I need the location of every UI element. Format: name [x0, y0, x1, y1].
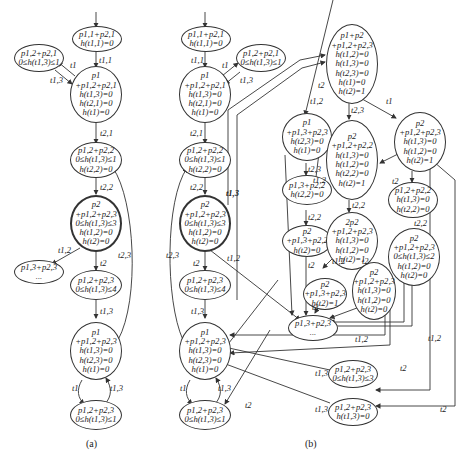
state-b8: p1+p2+p1,2+p2,3h(t1,2)=0h(t1,3)=0h(t2,3)…	[326, 24, 378, 104]
edge-label: t1,2	[428, 333, 441, 343]
state-a5: p1,3+p2,3...	[14, 260, 64, 284]
edge-label: t2,2	[352, 200, 365, 210]
edge-label: t2	[362, 256, 369, 266]
edge-label: t1,2	[310, 96, 323, 106]
edge-label: t1,2	[58, 245, 71, 255]
edge-label: t1	[386, 96, 393, 106]
edge-label: t1,2	[313, 175, 326, 185]
state-a2: p1+p1,2+p2,1h(t1,3)=0h(t2,1)=0h(t1)=0	[70, 66, 122, 123]
state-a6: p1,2+p2,30≤h(t1,3)≤4	[70, 270, 122, 300]
edge-label: t2,3	[351, 105, 364, 115]
state-a3: p1,2+p2,20≤h(t1,3)≤1h(t2,2)=0	[70, 142, 122, 178]
edge-label: t1,1	[191, 55, 204, 65]
state-b20: p1,2+p2,30≤h(t1,3)≤3	[328, 360, 378, 388]
state-b17: p2+p1,3+p2,3h(t2)=1	[303, 278, 347, 310]
edge-label: t1,3	[315, 368, 328, 378]
state-b3: p1,2+p2,20≤h(t1,3)≤1h(t2,2)=0	[179, 142, 231, 178]
edge-label: t2	[193, 258, 200, 268]
edge-label: t1,2	[355, 334, 368, 344]
edge-label: t1,3	[218, 383, 231, 393]
edge-label: t2,3	[308, 164, 321, 174]
state-b15: p1,2+p2,2h(t1,3)=0h(t2,2)=0	[388, 182, 438, 218]
edge-label: t2,2	[190, 182, 203, 192]
edge-label: t1,3	[110, 383, 123, 393]
edge-label: t1,1	[99, 55, 112, 65]
edge-label: t1,2	[332, 256, 345, 266]
edge-label: t1,3	[191, 306, 204, 316]
caption-b: (b)	[305, 438, 317, 449]
state-b6: p1+p1,2+p2,3h(t1,3)=0h(t2,3)=0h(t1)=0	[179, 322, 231, 380]
edge-label: t2	[245, 400, 252, 410]
state-a0: p1,1+p2,1h(t1,1)=0	[72, 26, 122, 52]
state-b11: p2+p1,2+p2,3h(t1,3)=0h(t1,2)=0h(t2)=1	[394, 112, 446, 172]
edge-label: t2	[312, 302, 319, 312]
edge-label: t1	[222, 60, 229, 70]
state-a4: p2+p1,2+p2,30≤h(t1,3)≤3h(t1,2)=0h(t2)=0	[70, 195, 122, 252]
state-b16: p2+p1,2+p2,30≤h(t1,3)≤2h(t1,2)=0h(t2)=0	[388, 228, 440, 286]
state-b4: p2+p1,2+p2,30≤h(t1,3)≤3h(t1,2)=0h(t2)=0	[179, 195, 231, 252]
edge-label: t2,3	[166, 250, 179, 260]
edge-label: t2	[440, 404, 447, 414]
edge-label: t1,3	[50, 75, 63, 85]
edge-label: t2,2	[100, 182, 113, 192]
caption-a: (a)	[86, 438, 97, 449]
state-b19: p1,3+p2,3...	[288, 315, 338, 341]
edge-label: t2,2	[414, 218, 427, 228]
edge-label: t2,1	[190, 128, 203, 138]
edge-label: t1,3	[226, 188, 239, 198]
edge-label: t2	[100, 258, 107, 268]
edge-label: t2	[318, 80, 325, 90]
edge-label: t1	[180, 383, 187, 393]
state-b18: p2+p1,2+p2,3h(t1,3)=0h(t1,2)=0h(t2)=0	[352, 262, 396, 320]
edge-label: t2,3	[118, 250, 131, 260]
state-a8: p1,2+p2,30≤h(t1,3)≤1	[70, 400, 122, 430]
state-b2: p1+p1,2+p2,1h(t1,3)=0h(t2,1)=0h(t1)=0	[179, 66, 231, 123]
edge-label: t2	[400, 363, 407, 373]
state-a7: p1+p1,2+p2,3h(t1,3)=0h(t2,3)=0h(t1)=0	[70, 322, 122, 380]
state-b0: p1,1+p2,1h(t1,1)=0	[181, 26, 231, 52]
edge-label: t2,2	[308, 212, 321, 222]
edge-label: t1,3	[315, 404, 328, 414]
edge-label: t1,2	[227, 253, 240, 263]
state-b5: p1,2+p2,30≤h(t1,3)≤4	[179, 270, 231, 300]
state-b10: p2+p1,2+p2,2h(t1,3)=0h(t1,2)=0h(t2,2)=0h…	[326, 120, 378, 200]
state-b21: p1,2+p2,3h(t1,3)=0	[328, 398, 378, 426]
state-a1: p1,2+p2,10≤h(t1,3)≤1	[14, 44, 64, 72]
edge-label: t1	[72, 383, 79, 393]
edge-label: t1	[70, 60, 77, 70]
state-b13: p2+p1,3+p2,2h(t2)=0	[282, 225, 332, 257]
edge-label: t2,1	[100, 128, 113, 138]
state-b1: p1,2+p2,10≤h(t1,3)≤1	[236, 44, 286, 72]
state-b7: p1,2+p2,30≤h(t1,3)≤1	[179, 400, 231, 430]
edge-label: t1,3	[240, 75, 253, 85]
state-b9: p1+p1,3+p2,3h(t2,3)=0h(t1)=0	[282, 113, 332, 161]
edge-label: t2	[308, 260, 315, 270]
edge-label: t1,3	[100, 306, 113, 316]
edge-label: t2	[392, 176, 399, 186]
